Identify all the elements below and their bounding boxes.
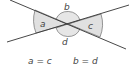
angle-label-c: c: [88, 21, 93, 31]
equation-a-equals-c: a = c: [28, 56, 52, 66]
vertically-opposite-angles-diagram: a b c d a = c b = d: [0, 0, 135, 67]
equation-b-equals-d: b = d: [73, 56, 98, 66]
angle-label-b: b: [64, 2, 70, 12]
angle-label-a: a: [40, 19, 46, 29]
angle-label-d: d: [62, 37, 68, 47]
